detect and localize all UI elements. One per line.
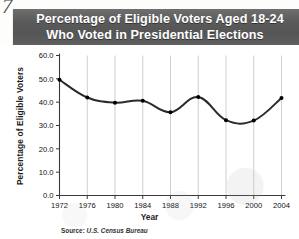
y-axis-tick-label: 40.0 bbox=[39, 98, 54, 107]
y-axis-tick-label: 30.0 bbox=[39, 121, 54, 130]
y-axis-tick-label: 60.0 bbox=[39, 51, 54, 60]
data-point-marker bbox=[196, 95, 200, 99]
y-axis-tick-label: 20.0 bbox=[39, 145, 54, 154]
data-point-marker bbox=[141, 99, 145, 103]
data-point-marker bbox=[280, 96, 284, 100]
y-axis-title: Percentage of Eligible Voters bbox=[12, 56, 28, 196]
source-label: Source: bbox=[61, 227, 85, 234]
x-axis-tick-label: 1980 bbox=[107, 201, 124, 210]
chart-page: 7 Percentage of Eligible Voters Aged 18-… bbox=[0, 0, 299, 239]
chart-title-line-2: Who Voted in Presidential Elections bbox=[13, 27, 299, 43]
x-axis-tick-label: 1996 bbox=[218, 201, 235, 210]
data-point-marker bbox=[58, 78, 62, 82]
chart-area: 0.010.020.030.040.050.060.01972197619801… bbox=[0, 45, 299, 239]
x-axis-tick-label: 1988 bbox=[162, 201, 179, 210]
data-point-marker bbox=[224, 118, 228, 122]
y-axis-tick-label: 0.0 bbox=[43, 191, 54, 200]
x-axis-tick-label: 1976 bbox=[79, 201, 96, 210]
x-axis-tick-label: 1984 bbox=[134, 201, 151, 210]
data-point-marker bbox=[85, 96, 89, 100]
data-point-marker bbox=[252, 119, 256, 123]
x-axis-tick-label: 2000 bbox=[245, 201, 262, 210]
y-axis-tick-label: 10.0 bbox=[39, 168, 54, 177]
source-value: U.S. Census Bureau bbox=[87, 227, 148, 234]
data-point-marker bbox=[169, 110, 173, 114]
source-note: Source: U.S. Census Bureau bbox=[61, 227, 148, 234]
x-axis-title: Year bbox=[0, 212, 299, 222]
x-axis-tick-label: 1992 bbox=[190, 201, 207, 210]
y-axis-tick-label: 50.0 bbox=[39, 75, 54, 84]
chart-title-band: Percentage of Eligible Voters Aged 18-24… bbox=[13, 9, 299, 45]
line-chart-svg: 0.010.020.030.040.050.060.01972197619801… bbox=[0, 45, 299, 239]
question-number: 7 bbox=[2, 0, 13, 17]
data-point-marker bbox=[113, 101, 117, 105]
chart-title-line-1: Percentage of Eligible Voters Aged 18-24 bbox=[21, 11, 299, 27]
y-axis-title-text: Percentage of Eligible Voters bbox=[15, 67, 25, 185]
x-axis-tick-label: 2004 bbox=[273, 201, 290, 210]
x-axis-tick-label: 1972 bbox=[51, 201, 68, 210]
